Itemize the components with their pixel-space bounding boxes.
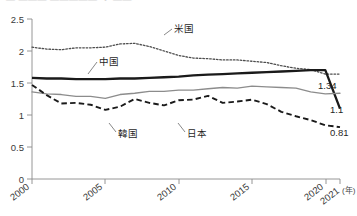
- series-label-china: 中国: [99, 56, 119, 67]
- annotation-leader-group: [88, 29, 185, 132]
- y-tick-group: 0 0.5 1 1.5 2 2.5: [11, 14, 32, 185]
- x-tick-label-2015: 2015: [228, 181, 251, 203]
- axis-group: [32, 19, 340, 179]
- end-label-korea: 0.81: [330, 127, 349, 138]
- y-tick-label-0.5: 0.5: [11, 142, 24, 153]
- end-label-japan: 1.34: [318, 80, 337, 91]
- end-label-china: 1.1: [330, 104, 343, 115]
- leader-line-us: [164, 29, 172, 35]
- fertility-rate-line-chart: ― ――― ――――― ・ ―― 0 0.5 1 1.5 2 2.5: [0, 0, 357, 216]
- series-line-japan: [32, 86, 340, 98]
- x-axis-unit-label: (年): [342, 185, 356, 195]
- y-tick-label-1: 1: [19, 110, 24, 121]
- y-tick-label-2.5: 2.5: [11, 14, 24, 25]
- x-tick-group: 2000 2005 2010 2015 2020 2021 (年): [8, 179, 356, 207]
- chart-canvas: 0 0.5 1 1.5 2 2.5 2000 2005 2010 2015 20…: [0, 0, 357, 216]
- leader-line-china: [88, 62, 97, 74]
- annotation-label-group: 米国 中国 韓国 日本: [99, 23, 207, 139]
- series-group: [32, 43, 340, 127]
- leader-line-korea: [109, 123, 116, 132]
- y-tick-label-2: 2: [19, 46, 24, 57]
- series-label-us: 米国: [174, 23, 194, 34]
- series-label-japan: 日本: [187, 128, 207, 139]
- leader-line-japan: [178, 123, 185, 132]
- end-value-label-group: 1.34 1.1 0.81: [318, 80, 349, 138]
- series-line-korea: [32, 85, 340, 127]
- series-line-us: [32, 43, 340, 74]
- x-tick-label-2005: 2005: [81, 181, 104, 203]
- x-tick-label-2010: 2010: [155, 181, 178, 203]
- series-label-korea: 韓国: [118, 128, 138, 139]
- x-tick-label-2000: 2000: [8, 181, 31, 203]
- y-tick-label-1.5: 1.5: [11, 78, 24, 89]
